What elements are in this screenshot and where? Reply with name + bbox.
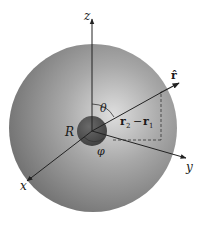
y-axis-label: y (185, 160, 193, 174)
separation-label: r 2 − r 1 (120, 115, 153, 130)
svg-text:1: 1 (149, 122, 153, 130)
theta-label: θ (100, 102, 107, 115)
svg-text:2: 2 (126, 122, 130, 130)
r-hat-label: r̂ (171, 69, 177, 82)
phi-label: φ (97, 145, 105, 158)
x-axis-label: x (20, 179, 27, 193)
svg-text:−: − (133, 115, 142, 128)
z-axis-label: z (83, 9, 91, 23)
radius-label: R (64, 125, 74, 139)
sphere-coordinate-diagram: z r̂ θ φ R y x r 2 − r 1 (0, 0, 206, 225)
